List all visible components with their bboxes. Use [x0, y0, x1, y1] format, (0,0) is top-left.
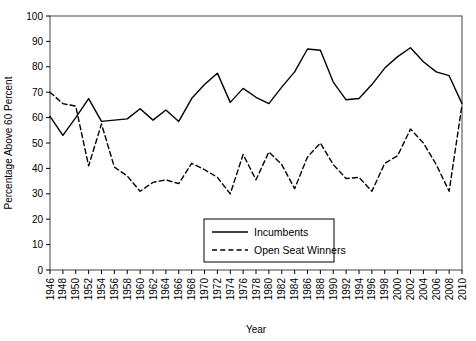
- x-axis-tick-label: 1972: [212, 278, 223, 301]
- series-line-incumbents: [50, 48, 462, 136]
- x-axis-tick-label: 2000: [392, 278, 403, 301]
- y-axis-tick-label: 20: [32, 214, 44, 225]
- x-axis-tick-label: 1956: [109, 278, 120, 301]
- x-axis-tick-label: 2010: [457, 278, 468, 301]
- x-axis-tick-label: 1992: [341, 278, 352, 301]
- y-axis-tick-label: 0: [37, 265, 43, 276]
- legend-label-incumbents: Incumbents: [254, 226, 308, 238]
- x-axis-tick-label: 2006: [431, 278, 442, 301]
- x-axis-tick-label: 1986: [302, 278, 313, 301]
- x-axis-tick-label: 1998: [379, 278, 390, 301]
- x-axis-tick-label: 2008: [444, 278, 455, 301]
- legend-label-open-seat-winners: Open Seat Winners: [254, 244, 346, 256]
- series-line-open-seat-winners: [50, 92, 462, 194]
- y-axis-tick-label: 80: [32, 61, 44, 72]
- y-axis-tick-label: 40: [32, 163, 44, 174]
- x-axis-tick-label: 1990: [328, 278, 339, 301]
- x-axis-title: Year: [246, 324, 267, 335]
- y-axis-tick-label: 90: [32, 36, 44, 47]
- y-axis-tick-label: 50: [32, 138, 44, 149]
- x-axis-tick-label: 1958: [122, 278, 133, 301]
- chart-container: 0102030405060708090100194619481950195219…: [0, 0, 476, 341]
- y-axis-tick-label: 100: [26, 11, 43, 22]
- y-axis-tick-label: 30: [32, 188, 44, 199]
- line-chart: 0102030405060708090100194619481950195219…: [0, 0, 476, 341]
- x-axis-tick-label: 1988: [315, 278, 326, 301]
- x-axis-tick-label: 1964: [160, 278, 171, 301]
- x-axis-tick-label: 1980: [263, 278, 274, 301]
- x-axis-tick-label: 1982: [276, 278, 287, 301]
- x-axis-tick-label: 1960: [135, 278, 146, 301]
- x-axis-tick-label: 1948: [57, 278, 68, 301]
- x-axis-tick-label: 1974: [225, 278, 236, 301]
- y-axis-title: Percentage Above 60 Percent: [3, 76, 14, 209]
- x-axis-tick-label: 1984: [289, 278, 300, 301]
- x-axis-tick-label: 1976: [238, 278, 249, 301]
- x-axis-tick-label: 1950: [70, 278, 81, 301]
- x-axis-tick-label: 2004: [418, 278, 429, 301]
- y-axis-tick-label: 60: [32, 112, 44, 123]
- x-axis-tick-label: 1996: [366, 278, 377, 301]
- x-axis-tick-label: 1978: [251, 278, 262, 301]
- x-axis-tick-label: 1994: [354, 278, 365, 301]
- x-axis-tick-label: 1952: [83, 278, 94, 301]
- x-axis-tick-label: 1966: [173, 278, 184, 301]
- x-axis-tick-label: 1968: [186, 278, 197, 301]
- x-axis-tick-label: 2002: [405, 278, 416, 301]
- y-axis-tick-label: 70: [32, 87, 44, 98]
- x-axis-tick-label: 1946: [45, 278, 56, 301]
- x-axis-tick-label: 1962: [148, 278, 159, 301]
- x-axis-tick-label: 1954: [96, 278, 107, 301]
- y-axis-tick-label: 10: [32, 239, 44, 250]
- x-axis-tick-label: 1970: [199, 278, 210, 301]
